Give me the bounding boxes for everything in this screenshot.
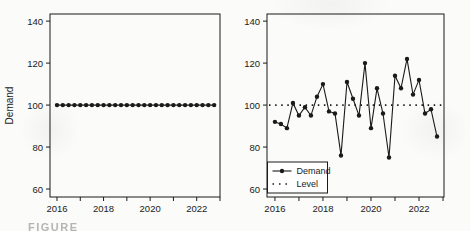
data-point <box>387 155 391 159</box>
data-point <box>273 120 277 124</box>
data-point <box>142 103 146 107</box>
data-point <box>136 103 140 107</box>
data-point <box>423 111 427 115</box>
data-point <box>297 113 301 117</box>
y-tick-label: 80 <box>249 142 260 153</box>
y-tick-label: 60 <box>32 184 43 195</box>
y-axis-title: Demand <box>4 87 15 125</box>
data-point <box>345 80 349 84</box>
data-point <box>90 103 94 107</box>
data-point <box>351 97 355 101</box>
x-tick-label: 2018 <box>312 203 333 214</box>
y-tick-label: 140 <box>27 16 43 27</box>
data-point <box>189 103 193 107</box>
demand-line <box>275 59 437 158</box>
data-point <box>321 82 325 86</box>
data-point <box>327 109 331 113</box>
data-point <box>429 107 433 111</box>
x-tick-label: 2022 <box>186 203 207 214</box>
data-point <box>357 113 361 117</box>
data-point <box>195 103 199 107</box>
data-point <box>130 103 134 107</box>
y-tick-label: 120 <box>27 58 43 69</box>
y-tick-label: 100 <box>244 100 260 111</box>
data-point <box>96 103 100 107</box>
data-point <box>148 103 152 107</box>
data-point <box>72 103 76 107</box>
data-point <box>113 103 117 107</box>
data-point <box>285 126 289 130</box>
data-point <box>160 103 164 107</box>
data-point <box>411 92 415 96</box>
data-point <box>119 103 123 107</box>
data-point <box>200 103 204 107</box>
y-tick-label: 140 <box>244 16 260 27</box>
data-point <box>417 78 421 82</box>
data-point <box>393 73 397 77</box>
data-point <box>369 126 373 130</box>
data-point <box>101 103 105 107</box>
data-point <box>125 103 129 107</box>
y-tick-label: 80 <box>32 142 43 153</box>
data-point <box>381 111 385 115</box>
data-point <box>165 103 169 107</box>
data-point <box>183 103 187 107</box>
data-point <box>333 111 337 115</box>
y-tick-label: 120 <box>244 58 260 69</box>
x-tick-label: 2018 <box>93 203 114 214</box>
x-tick-label: 2020 <box>140 203 161 214</box>
y-tick-label: 60 <box>249 184 260 195</box>
data-point <box>339 153 343 157</box>
data-point <box>279 122 283 126</box>
data-point <box>177 103 181 107</box>
x-tick-label: 2016 <box>46 203 67 214</box>
x-tick-label: 2022 <box>408 203 429 214</box>
caption-fragment: FIGURE <box>28 221 148 231</box>
data-point <box>212 103 216 107</box>
data-point <box>66 103 70 107</box>
data-point <box>399 86 403 90</box>
data-point <box>107 103 111 107</box>
data-point <box>55 103 59 107</box>
legend-label: Level <box>297 179 319 189</box>
data-point <box>61 103 65 107</box>
data-point <box>363 61 367 65</box>
data-point <box>206 103 210 107</box>
y-tick-label: 100 <box>27 100 43 111</box>
data-point <box>171 103 175 107</box>
legend-marker-sample <box>280 169 284 173</box>
data-point <box>405 57 409 61</box>
x-tick-label: 2016 <box>264 203 285 214</box>
data-point <box>375 86 379 90</box>
x-tick-label: 2020 <box>360 203 381 214</box>
data-point <box>84 103 88 107</box>
data-point <box>309 113 313 117</box>
data-point <box>154 103 158 107</box>
data-point <box>78 103 82 107</box>
data-point <box>315 94 319 98</box>
data-point <box>435 134 439 138</box>
legend-label: Demand <box>297 166 331 176</box>
